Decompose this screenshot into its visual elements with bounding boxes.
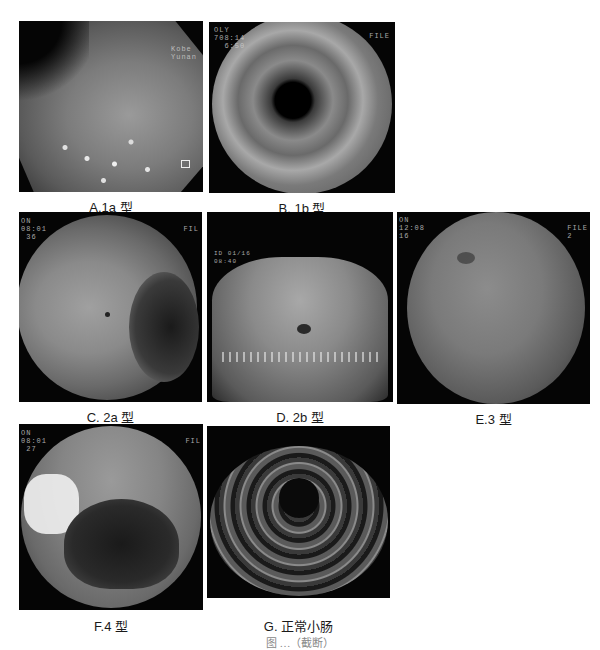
panel-g-label: G. 正常小肠 — [207, 616, 390, 635]
panel-g-scope-view — [210, 446, 388, 596]
panel-d-ulcer — [297, 324, 311, 334]
panel-d-image: ID 01/16 08:40 — [207, 212, 393, 402]
panel-f-label: F.4 型 — [19, 616, 203, 635]
panel-c-lesion-dot — [105, 312, 110, 317]
panel-d-osd-left: ID 01/16 08:40 — [214, 250, 251, 266]
panel-e-osd-right: FILE 2 — [567, 224, 588, 240]
panel-g-lumen — [279, 478, 319, 518]
panel-e-image: ON 12:08 16 FILE 2 — [397, 212, 590, 404]
panel-c-osd-left: ON 08:01 36 — [21, 217, 47, 241]
panel-a-image: Kobe Yunan — [19, 21, 203, 192]
panel-a-marker-box — [181, 160, 190, 168]
panel-f-osd-right: FIL — [185, 437, 201, 445]
panel-b-osd-left: OLY 708:14 6:50 — [214, 26, 245, 50]
panel-g-image — [207, 426, 390, 598]
panel-e-vascular-lesion — [457, 252, 475, 264]
panel-e-label: E.3 型 — [397, 409, 590, 428]
panel-f-osd-left: ON 08:01 27 — [21, 429, 47, 453]
panel-c-image: ON 08:01 36 FIL — [19, 212, 202, 402]
panel-a-osd-right: Kobe Yunan — [171, 45, 197, 61]
panel-a-spots — [54, 131, 164, 186]
panel-b-image: OLY 708:14 6:50 FILE — [209, 22, 395, 193]
panel-d-highlights — [222, 352, 382, 362]
panel-c-lumen-fold — [129, 272, 199, 382]
panel-d-label: D. 2b 型 — [207, 407, 393, 426]
panel-e-scope-view — [407, 212, 585, 404]
figure-caption-truncated: 图 …（截断） — [0, 634, 600, 650]
panel-c-osd-right: FIL — [183, 225, 199, 233]
panel-f-image: ON 08:01 27 FIL — [19, 424, 203, 610]
panel-f-lumen — [64, 499, 179, 589]
panel-e-osd-left: ON 12:08 16 — [399, 216, 425, 240]
panel-b-osd-right: FILE — [369, 32, 390, 40]
panel-a-dark-corner — [19, 21, 89, 101]
